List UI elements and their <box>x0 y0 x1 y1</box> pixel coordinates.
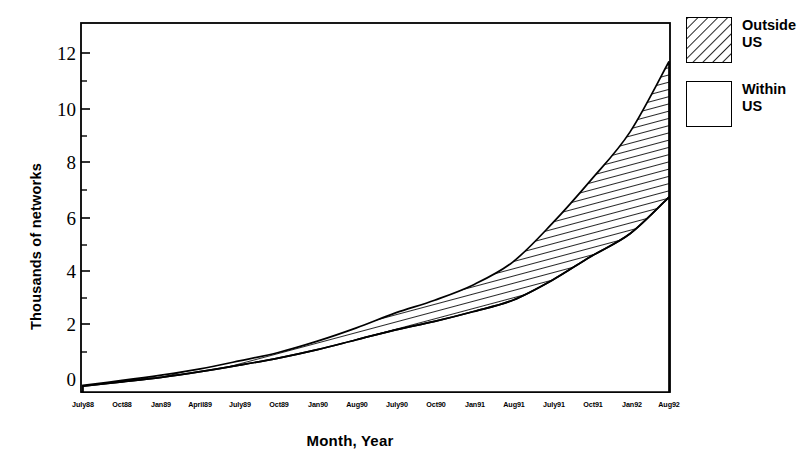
chart-figure: Thousands of networks Month, Year 12 10 … <box>0 0 809 468</box>
legend-label-outside-us: Outside US <box>742 17 796 51</box>
plot-area <box>0 0 809 468</box>
y-axis-major-ticks <box>81 53 90 392</box>
legend-swatch-outside-us <box>686 17 732 63</box>
legend-label-within-us: Within US <box>742 81 786 115</box>
legend-swatch-within-us <box>686 81 732 127</box>
